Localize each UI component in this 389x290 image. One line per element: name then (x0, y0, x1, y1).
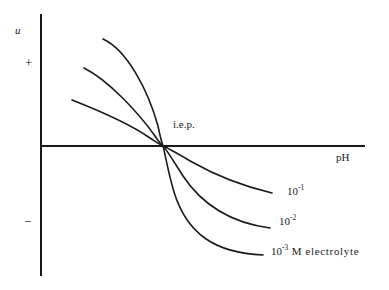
series-label-exponent: -2 (290, 213, 296, 222)
curve-10-2 (84, 68, 270, 228)
series-label-base: 10 (279, 215, 290, 227)
series-label-exponent: -1 (298, 183, 304, 192)
y-axis-positive-sign: + (25, 56, 32, 69)
series-label-10-1: 10-1 (287, 186, 304, 197)
iep-annotation: i.e.p. (173, 119, 195, 130)
series-label-base: 10 (287, 185, 298, 197)
series-label-10-3: 10-3 M electrolyte (271, 246, 359, 257)
y-axis-label: u (15, 25, 21, 36)
series-group (72, 39, 272, 255)
series-label-suffix: M electrolyte (288, 245, 359, 257)
x-axis-label: pH (336, 152, 349, 163)
y-axis-negative-sign: − (24, 215, 31, 228)
curve-10-3 (103, 39, 263, 255)
series-label-base: 10 (271, 245, 282, 257)
series-label-10-2: 10-2 (279, 216, 296, 227)
chart-figure: u + − pH i.e.p. 10-1 10-2 10-3 M electro… (0, 0, 389, 290)
